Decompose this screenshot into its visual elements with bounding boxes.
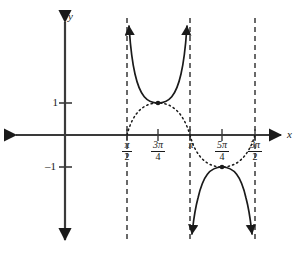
y-axis-label: y	[68, 10, 73, 22]
fraction-numerator: 3π	[151, 140, 165, 151]
cosecant-upper-branch	[129, 26, 187, 103]
graph-figure: y x 1 –1 π 2 3π 4 π 5π 4 3π 2	[0, 0, 297, 253]
x-tick-label-pi: π	[174, 140, 208, 151]
vertex-lower-dot	[220, 165, 225, 170]
fraction-denominator: 2	[248, 151, 262, 163]
x-axis-label: x	[287, 128, 292, 140]
csc-lower-left-arm	[192, 167, 222, 234]
y-tick-label-1: 1	[36, 96, 58, 108]
fraction-pi-over-2: π 2	[122, 140, 131, 162]
fraction-denominator: 2	[122, 151, 131, 163]
plot-canvas	[0, 0, 297, 253]
cosecant-lower-branch	[192, 167, 252, 234]
fraction-3pi-over-4: 3π 4	[151, 140, 165, 162]
x-tick-label-pi-over-2: π 2	[110, 140, 144, 162]
x-tick-label-5pi-over-4: 5π 4	[205, 140, 239, 162]
csc-upper-left-arm	[129, 26, 158, 103]
fraction-denominator: 4	[215, 151, 229, 163]
asymptote-group	[127, 18, 255, 243]
x-tick-label-3pi-over-4: 3π 4	[141, 140, 175, 162]
vertex-upper-dot	[156, 101, 161, 106]
fraction-numerator: 5π	[215, 140, 229, 151]
fraction-numerator: π	[122, 140, 131, 151]
axis-group	[16, 22, 281, 240]
pi-symbol: π	[188, 140, 193, 151]
fraction-3pi-over-2: 3π 2	[248, 140, 262, 162]
fraction-5pi-over-4: 5π 4	[215, 140, 229, 162]
x-tick-label-3pi-over-2: 3π 2	[238, 140, 272, 162]
fraction-denominator: 4	[151, 151, 165, 163]
csc-lower-right-arm	[222, 167, 252, 234]
fraction-numerator: 3π	[248, 140, 262, 151]
y-tick-label-minus-1: –1	[34, 160, 56, 172]
csc-upper-right-arm	[158, 26, 187, 103]
